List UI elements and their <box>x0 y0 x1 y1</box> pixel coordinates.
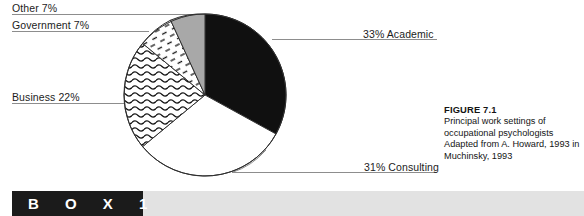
figure-caption: FIGURE 7.1 Principal work settings of oc… <box>444 104 582 162</box>
figure-caption-line: Principal work settings of <box>444 116 582 127</box>
box-banner-label: B O X 1 <box>28 194 158 214</box>
pie-label-consulting: 31% Consulting <box>364 161 439 173</box>
figure-7-1: Other 7% Government 7% Business 22% 33% … <box>0 0 584 216</box>
figure-caption-line: occupational psychologists <box>444 128 582 139</box>
pie-label-government: Government 7% <box>12 19 89 31</box>
figure-caption-line: Muchinsky, 1993 <box>444 151 582 162</box>
pie-slices <box>124 14 286 176</box>
figure-caption-title: FIGURE 7.1 <box>444 104 582 115</box>
figure-caption-line: Adapted from A. Howard, 1993 in <box>444 139 582 150</box>
pie-label-business: Business 22% <box>12 91 80 103</box>
pie-label-other: Other 7% <box>12 2 57 14</box>
box-banner: B O X 1 <box>12 191 584 216</box>
pie-label-academic: 33% Academic <box>363 28 434 40</box>
